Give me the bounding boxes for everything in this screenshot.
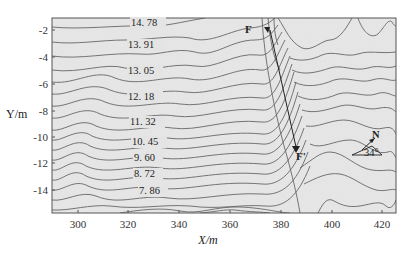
contour-label-872: 8. 72 bbox=[134, 168, 155, 179]
y-tick: -4 bbox=[39, 51, 49, 63]
contour-label-786: 7. 86 bbox=[139, 185, 160, 196]
y-tick: -8 bbox=[39, 105, 49, 117]
y-tick: -12 bbox=[33, 157, 48, 169]
north-label: N bbox=[372, 129, 380, 140]
x-tick: 400 bbox=[324, 218, 341, 230]
angle-label: 34° bbox=[364, 147, 379, 158]
y-axis-label: Y/m bbox=[6, 107, 28, 121]
x-axis-label: X/m bbox=[197, 233, 218, 247]
fault-end-label: F' bbox=[296, 150, 306, 162]
x-tick: 320 bbox=[120, 218, 137, 230]
x-tick: 380 bbox=[273, 218, 290, 230]
y-axis: -2 -4 -6 -8 -10 -12 -14 Y/m bbox=[6, 24, 55, 196]
x-tick: 360 bbox=[222, 218, 239, 230]
y-tick: -2 bbox=[39, 24, 48, 36]
x-tick: 340 bbox=[171, 218, 188, 230]
x-tick: 300 bbox=[70, 218, 87, 230]
contour-label-1478: 14. 78 bbox=[131, 17, 157, 28]
y-tick: -6 bbox=[39, 78, 49, 90]
contour-label-1305: 13. 05 bbox=[128, 65, 154, 76]
contour-label-1132: 11. 32 bbox=[130, 116, 156, 127]
contour-label-1045: 10. 45 bbox=[132, 136, 158, 147]
x-axis: 300 320 340 360 380 400 420 X/m bbox=[70, 210, 391, 247]
contour-chart: 14. 78 13. 91 13. 05 12. 18 11. 32 10. 4… bbox=[0, 0, 411, 255]
contour-label-1391: 13. 91 bbox=[128, 39, 154, 50]
fault-start-label: F bbox=[245, 23, 252, 35]
contour-label-960: 9. 60 bbox=[134, 152, 155, 163]
contour-label-1218: 12. 18 bbox=[128, 91, 154, 102]
y-tick: -14 bbox=[33, 184, 48, 196]
x-tick: 420 bbox=[374, 218, 391, 230]
y-tick: -10 bbox=[33, 131, 48, 143]
